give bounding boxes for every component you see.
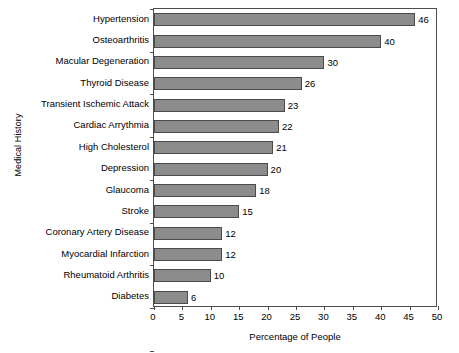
y-axis-tick	[150, 351, 154, 352]
bar	[154, 13, 415, 26]
x-axis-tick	[353, 306, 354, 310]
plot-area: 464030262322212018151212106	[153, 8, 437, 307]
bar	[154, 77, 302, 90]
bar	[154, 141, 273, 154]
bar-value-label: 20	[271, 163, 282, 176]
x-axis-tick-label: 40	[365, 311, 395, 322]
x-axis-tick-label: 45	[394, 311, 424, 322]
bar-chart-figure: Medical History 464030262322212018151212…	[0, 0, 459, 353]
y-axis-category-label: Macular Degeneration	[0, 56, 149, 66]
x-axis-tick	[211, 306, 212, 310]
bar	[154, 163, 268, 176]
bar	[154, 120, 279, 133]
bar	[154, 227, 222, 240]
x-axis-tick	[296, 306, 297, 310]
y-axis-tick	[150, 223, 154, 224]
y-axis-category-label: High Cholesterol	[0, 142, 149, 152]
x-axis-tick	[381, 306, 382, 310]
y-axis-category-label: Depression	[0, 163, 149, 173]
x-axis-tick	[239, 306, 240, 310]
bar	[154, 99, 285, 112]
y-axis-category-label: Glaucoma	[0, 185, 149, 195]
bar-value-label: 46	[418, 13, 429, 26]
bar-value-label: 22	[282, 120, 293, 133]
bar-value-label: 23	[288, 99, 299, 112]
x-axis-tick-label: 25	[280, 311, 310, 322]
y-axis-tick	[150, 265, 154, 266]
x-axis-tick-label: 5	[166, 311, 196, 322]
y-axis-category-label: Myocardial Infarction	[0, 249, 149, 259]
y-axis-category-label: Diabetes	[0, 291, 149, 301]
x-axis-tick-label: 10	[195, 311, 225, 322]
bar-value-label: 10	[214, 269, 225, 282]
bar-value-label: 12	[225, 248, 236, 261]
y-axis-category-label: Stroke	[0, 206, 149, 216]
x-axis-tick-label: 35	[337, 311, 367, 322]
bar	[154, 205, 239, 218]
bar-value-label: 18	[259, 184, 270, 197]
y-axis-category-label: Rheumatoid Arthritis	[0, 270, 149, 280]
x-axis-tick	[324, 306, 325, 310]
x-axis-tick	[268, 306, 269, 310]
bar-value-label: 30	[327, 56, 338, 69]
x-axis-tick-label: 50	[422, 311, 452, 322]
x-axis-tick	[438, 306, 439, 310]
bar	[154, 248, 222, 261]
x-axis-tick-label: 20	[252, 311, 282, 322]
bar-value-label: 15	[242, 205, 253, 218]
bar	[154, 184, 256, 197]
bar	[154, 269, 211, 282]
y-axis-tick	[150, 52, 154, 53]
y-axis-category-label: Osteoarthritis	[0, 35, 149, 45]
y-axis-category-label: Thyroid Disease	[0, 78, 149, 88]
y-axis-category-label: Coronary Artery Disease	[0, 227, 149, 237]
x-axis-tick	[182, 306, 183, 310]
y-axis-category-label: Transient Ischemic Attack	[0, 99, 149, 109]
bar	[154, 56, 324, 69]
bar-value-label: 40	[384, 35, 395, 48]
x-axis-tick	[410, 306, 411, 310]
y-axis-category-label: Hypertension	[0, 14, 149, 24]
bar-value-label: 6	[191, 291, 196, 304]
y-axis-tick	[150, 180, 154, 181]
bar	[154, 35, 381, 48]
y-axis-category-label: Cardiac Arrythmia	[0, 120, 149, 130]
x-axis-tick-label: 15	[223, 311, 253, 322]
y-axis-tick	[150, 137, 154, 138]
bar-value-label: 12	[225, 227, 236, 240]
y-axis-tick	[150, 9, 154, 10]
bar-value-label: 26	[305, 77, 316, 90]
y-axis-tick	[150, 94, 154, 95]
x-axis-title: Percentage of People	[153, 331, 437, 342]
x-axis-tick-label: 0	[138, 311, 168, 322]
bar-value-label: 21	[276, 141, 287, 154]
bar	[154, 291, 188, 304]
x-axis-tick-label: 30	[308, 311, 338, 322]
x-axis-tick	[154, 306, 155, 310]
